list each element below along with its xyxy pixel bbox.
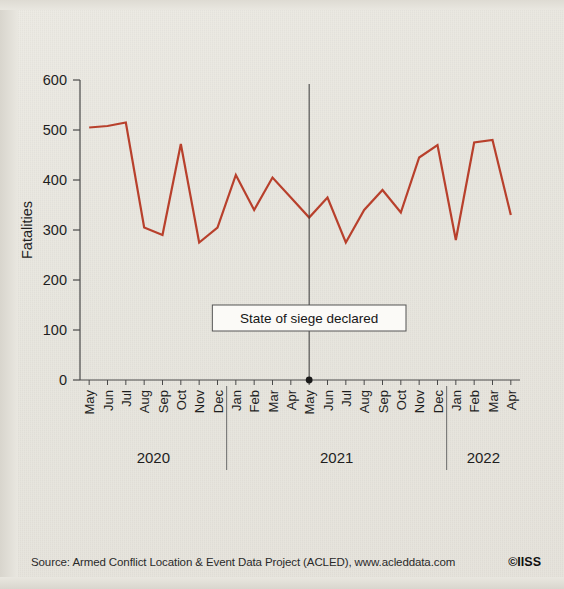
x-tick-label-month: Nov bbox=[192, 390, 207, 414]
x-tick-label-month: Oct bbox=[394, 390, 409, 411]
x-tick-label-month: Dec bbox=[431, 390, 446, 414]
credit-label: ©IISS bbox=[508, 555, 541, 569]
y-axis-title: Fatalities bbox=[19, 201, 35, 259]
y-tick-label: 200 bbox=[43, 272, 67, 288]
x-tick-label-month: Jan bbox=[449, 390, 464, 411]
series-line bbox=[89, 123, 511, 243]
y-axis-title-text: Fatalities bbox=[19, 201, 35, 259]
annotation-dot-marker bbox=[306, 377, 313, 384]
x-tick-label-month: Jun bbox=[321, 390, 336, 411]
x-tick-label-month: Mar bbox=[266, 389, 281, 412]
x-tick-label-month: Aug bbox=[357, 390, 372, 413]
x-tick-label-month: Aug bbox=[137, 390, 152, 413]
x-tick-label-month: May bbox=[302, 390, 317, 415]
x-tick-label-month: Nov bbox=[412, 390, 427, 414]
y-tick-label: 500 bbox=[43, 122, 67, 138]
x-tick-label-month: Apr bbox=[284, 389, 299, 410]
x-axis-year-label: 2022 bbox=[467, 449, 500, 466]
x-tick-label-month: Feb bbox=[247, 390, 262, 412]
annotation-group: State of siege declared bbox=[212, 84, 406, 383]
y-tick-label: 400 bbox=[43, 172, 67, 188]
y-tick-label: 300 bbox=[43, 222, 67, 238]
x-tick-label-month: Sep bbox=[156, 390, 171, 413]
source-note: Source: Armed Conflict Location & Event … bbox=[31, 556, 455, 568]
x-tick-label-month: Oct bbox=[174, 390, 189, 411]
x-tick-label-month: Jun bbox=[101, 390, 116, 411]
y-axis: 0100200300400500600 bbox=[43, 72, 80, 388]
x-tick-label-month: Jul bbox=[119, 390, 134, 407]
x-axis: MayJunJulAugSepOctNovDecJanFebMarAprMayJ… bbox=[80, 380, 520, 470]
annotation-label: State of siege declared bbox=[240, 311, 378, 326]
x-tick-label-month: Feb bbox=[467, 390, 482, 412]
x-tick-label-month: Jul bbox=[339, 390, 354, 407]
fatalities-line-chart: 0100200300400500600 MayJunJulAugSepOctNo… bbox=[0, 0, 564, 589]
x-tick-label-month: Sep bbox=[376, 390, 391, 413]
data-series-fatalities bbox=[89, 123, 511, 243]
chart-figure: 0100200300400500600 MayJunJulAugSepOctNo… bbox=[0, 0, 564, 589]
y-tick-label: 0 bbox=[59, 372, 67, 388]
y-tick-label: 100 bbox=[43, 322, 67, 338]
y-tick-label: 600 bbox=[43, 72, 67, 88]
x-tick-label-month: Apr bbox=[504, 389, 519, 410]
x-axis-year-label: 2021 bbox=[320, 449, 353, 466]
x-tick-label-month: Mar bbox=[486, 389, 501, 412]
x-axis-year-label: 2020 bbox=[137, 449, 170, 466]
x-tick-label-month: Jan bbox=[229, 390, 244, 411]
x-tick-label-month: May bbox=[82, 390, 97, 415]
x-tick-label-month: Dec bbox=[211, 390, 226, 414]
